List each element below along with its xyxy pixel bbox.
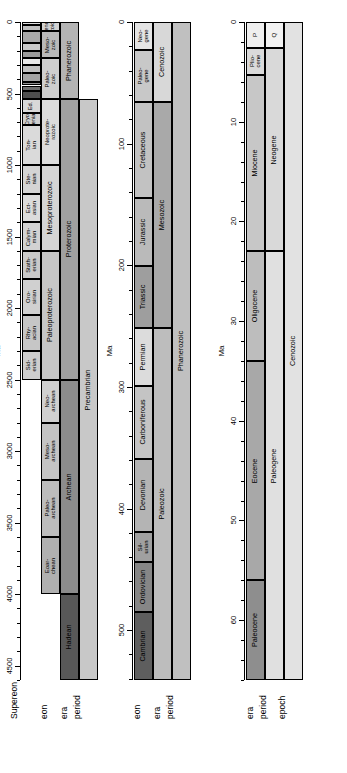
panel-cenozoic-major-tick bbox=[239, 221, 244, 222]
panel-precambrian-minor-tick bbox=[17, 294, 20, 295]
panel-precambrian-era-unit: Neoprote- rozoic bbox=[41, 99, 60, 165]
panel-phanerozoic-minor-tick bbox=[129, 168, 132, 169]
panel-phanerozoic-minor-tick bbox=[129, 654, 132, 655]
panel-phanerozoic-major-tick bbox=[127, 144, 132, 145]
panel-phanerozoic-era-unit-label: Mesozoic bbox=[159, 200, 166, 230]
panel-precambrian-era-unit: Paleo- archean bbox=[41, 480, 60, 537]
panel-phanerozoic-tick-label: 100 bbox=[117, 137, 126, 150]
panel-precambrian-minor-tick bbox=[17, 465, 20, 466]
panel-precambrian-minor-tick bbox=[17, 551, 20, 552]
panel-phanerozoic-minor-tick bbox=[129, 411, 132, 412]
panel-precambrian-period-unit: Rhy- acian bbox=[22, 315, 41, 351]
panel-phanerozoic-period-unit: Devonian bbox=[134, 459, 153, 532]
panel-phanerozoic-period-unit: Sil- urian bbox=[134, 532, 153, 562]
panel-precambrian-axis-line bbox=[20, 22, 21, 680]
panel-cenozoic-plot: CenozoicQNeogenePaleogenePPlio- ceneMioc… bbox=[246, 22, 303, 680]
panel-precambrian-major-tick bbox=[15, 666, 20, 667]
panel-cenozoic-period-unit: Neogene bbox=[265, 48, 284, 251]
panel-cenozoic-tick-label: 20 bbox=[229, 217, 238, 225]
panel-cenozoic-minor-tick bbox=[241, 560, 244, 561]
panel-precambrian-era-unit: Mesoproterozoic bbox=[41, 165, 60, 251]
panel-cenozoic-period-unit-label: Paleogene bbox=[271, 448, 278, 482]
panel-precambrian-era-unit-label: Meso- archean bbox=[44, 440, 56, 461]
panel-phanerozoic-period-unit-label: Cambrian bbox=[140, 630, 147, 661]
panel-phanerozoic-minor-tick bbox=[129, 241, 132, 242]
panel-cenozoic-minor-tick bbox=[241, 660, 244, 661]
panel-precambrian-row-label: period bbox=[72, 695, 82, 719]
panel-cenozoic-minor-tick bbox=[241, 241, 244, 242]
panel-precambrian-period-unit bbox=[22, 73, 41, 82]
panel-precambrian-minor-tick bbox=[17, 580, 20, 581]
panel-precambrian-minor-tick bbox=[17, 408, 20, 409]
panel-phanerozoic: PhanerozoicCenozoicMesozoicPaleozoicNeo-… bbox=[74, 22, 191, 680]
panel-precambrian-minor-tick bbox=[17, 222, 20, 223]
panel-precambrian-era-unit-label: Meso- zoic bbox=[44, 37, 56, 53]
panel-phanerozoic-tick-label: 0 bbox=[117, 20, 126, 24]
panel-phanerozoic-period-unit-label: Neo- gene bbox=[137, 29, 149, 42]
panel-cenozoic-minor-tick bbox=[241, 301, 244, 302]
panel-cenozoic-epoch-unit-label: Miocene bbox=[252, 149, 259, 176]
panel-precambrian-period-unit bbox=[22, 43, 41, 51]
panel-precambrian-period-unit: Oro- sirian bbox=[22, 279, 41, 315]
panel-precambrian-minor-tick bbox=[17, 508, 20, 509]
panel-precambrian-period-unit-label: Cryo- genian bbox=[26, 113, 37, 125]
panel-precambrian-minor-tick bbox=[17, 322, 20, 323]
panel-phanerozoic-row-label: era bbox=[151, 707, 161, 719]
panel-precambrian-minor-tick bbox=[17, 651, 20, 652]
panel-cenozoic-epoch-unit-label: P bbox=[252, 33, 258, 37]
panel-precambrian-period-unit-label: Sid- erian bbox=[25, 359, 37, 372]
panel-phanerozoic-tick-label: 200 bbox=[117, 259, 126, 272]
panel-cenozoic-epoch-unit: Plio- cene bbox=[246, 48, 265, 75]
panel-phanerozoic-era-unit: Mesozoic bbox=[153, 102, 172, 328]
panel-cenozoic-minor-tick bbox=[241, 82, 244, 83]
panel-cenozoic-minor-tick bbox=[241, 441, 244, 442]
panel-cenozoic-minor-tick bbox=[241, 640, 244, 641]
panel-phanerozoic-minor-tick bbox=[129, 484, 132, 485]
panel-precambrian-period-unit-label: Oro- sirian bbox=[25, 290, 37, 304]
panel-phanerozoic-period-unit-label: Permian bbox=[140, 344, 147, 371]
panel-phanerozoic-minor-tick bbox=[129, 95, 132, 96]
panel-precambrian-major-tick bbox=[15, 594, 20, 595]
panel-cenozoic-period-unit-label: Neogene bbox=[271, 135, 278, 164]
panel-phanerozoic-row-label: period bbox=[165, 695, 175, 719]
panel-precambrian-era-unit-label: Paleo- archean bbox=[44, 498, 56, 519]
panel-phanerozoic-minor-tick bbox=[129, 679, 132, 680]
panel-phanerozoic-period-unit: Permian bbox=[134, 328, 153, 385]
panel-precambrian-row-label: eon bbox=[38, 705, 48, 719]
panel-precambrian-major-tick bbox=[15, 380, 20, 381]
panel-precambrian-minor-tick bbox=[17, 637, 20, 638]
panel-precambrian-minor-tick bbox=[17, 623, 20, 624]
panel-cenozoic-minor-tick bbox=[241, 401, 244, 402]
panel-cenozoic-era-unit: Cenozoic bbox=[284, 22, 303, 680]
panel-cenozoic-minor-tick bbox=[241, 580, 244, 581]
panel-phanerozoic-minor-tick bbox=[129, 314, 132, 315]
panel-phanerozoic-period-unit: Jurassic bbox=[134, 198, 153, 266]
panel-precambrian-major-tick bbox=[15, 451, 20, 452]
panel-phanerozoic-axis-title: Ma bbox=[105, 345, 114, 356]
panel-precambrian-major-tick bbox=[15, 523, 20, 524]
panel-cenozoic-minor-tick bbox=[241, 381, 244, 382]
panel-precambrian-minor-tick bbox=[17, 365, 20, 366]
panel-precambrian-minor-tick bbox=[17, 251, 20, 252]
panel-cenozoic-tick-label: 10 bbox=[229, 118, 238, 126]
panel-cenozoic-minor-tick bbox=[241, 341, 244, 342]
panel-phanerozoic-period-unit-label: Ordovician bbox=[140, 570, 147, 604]
panel-precambrian-major-tick bbox=[15, 308, 20, 309]
panel-cenozoic-minor-tick bbox=[241, 142, 244, 143]
panel-precambrian-era-unit-label: Paleoproterozoic bbox=[47, 288, 54, 342]
panel-cenozoic-minor-tick bbox=[241, 162, 244, 163]
panel-cenozoic-axis-title: Ma bbox=[217, 345, 226, 356]
panel-cenozoic-minor-tick bbox=[241, 201, 244, 202]
panel-cenozoic-period-unit-label: Q bbox=[271, 33, 277, 38]
panel-cenozoic-major-tick bbox=[239, 22, 244, 23]
panel-precambrian-period-unit bbox=[22, 91, 41, 99]
panel-precambrian-row-label: Supereon bbox=[8, 682, 18, 719]
panel-cenozoic-minor-tick bbox=[241, 261, 244, 262]
panel-precambrian-major-tick bbox=[15, 94, 20, 95]
panel-precambrian-period-unit-label: Rhy- acian bbox=[25, 326, 37, 340]
panel-phanerozoic-major-tick bbox=[127, 630, 132, 631]
panel-cenozoic-major-tick bbox=[239, 620, 244, 621]
panel-cenozoic-epoch-unit: Miocene bbox=[246, 75, 265, 251]
panel-precambrian-minor-tick bbox=[17, 437, 20, 438]
panel-precambrian-period-unit-label: Ect- asian bbox=[25, 201, 37, 215]
